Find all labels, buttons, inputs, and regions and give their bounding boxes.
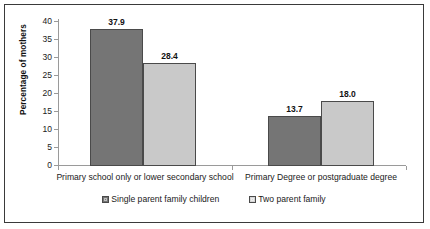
y-tick-label-40: 40 <box>30 17 52 26</box>
x-category-label-1: Primary school only or lower secondary s… <box>52 172 238 183</box>
bar-group1-series2[interactable] <box>143 63 196 166</box>
y-tick-5: 5 <box>27 143 52 152</box>
bar-group1-series1[interactable] <box>90 29 143 166</box>
y-tick-mark-40 <box>54 21 58 22</box>
x-category-label-2: Primary Degree or postgraduate degree <box>233 172 409 183</box>
y-tick-label-35: 35 <box>30 35 52 44</box>
y-tick-40: 40 <box>27 17 52 26</box>
y-tick-20: 20 <box>27 89 52 98</box>
legend-label-series1: Single parent family children <box>111 194 219 204</box>
y-tick-label-0: 0 <box>30 161 52 170</box>
y-tick-label-30: 30 <box>30 53 52 62</box>
y-tick-mark-10 <box>54 129 58 130</box>
bar-value-label-group1-series2: 28.4 <box>143 51 196 61</box>
y-tick-25: 25 <box>27 71 52 80</box>
x-tick-mark-divider <box>232 166 233 170</box>
y-tick-label-15: 15 <box>30 107 52 116</box>
legend-label-series2: Two parent family <box>258 194 325 204</box>
y-tick-mark-30 <box>54 57 58 58</box>
x-tick-mark-start <box>58 166 59 170</box>
chart-figure: Percentage of mothers 0 5 10 15 20 25 30 <box>4 4 424 223</box>
legend-swatch-icon-series2 <box>249 196 256 203</box>
y-tick-label-20: 20 <box>30 89 52 98</box>
plot-area: Percentage of mothers 0 5 10 15 20 25 30 <box>5 5 423 222</box>
x-tick-mark-end <box>406 166 407 170</box>
y-tick-35: 35 <box>27 35 52 44</box>
legend-item-single-parent-family-children[interactable]: Single parent family children <box>102 194 219 204</box>
y-tick-mark-35 <box>54 39 58 40</box>
y-tick-10: 10 <box>27 125 52 134</box>
bar-value-label-group2-series1: 13.7 <box>268 104 321 114</box>
y-tick-label-25: 25 <box>30 71 52 80</box>
y-tick-mark-25 <box>54 75 58 76</box>
y-tick-mark-15 <box>54 111 58 112</box>
y-tick-mark-5 <box>54 147 58 148</box>
legend-swatch-icon-series1 <box>102 196 109 203</box>
bar-value-label-group2-series2: 18.0 <box>321 89 374 99</box>
bar-group2-series1[interactable] <box>268 116 321 166</box>
y-axis-line <box>58 19 59 166</box>
y-tick-label-10: 10 <box>30 125 52 134</box>
y-tick-30: 30 <box>27 53 52 62</box>
bar-group2-series2[interactable] <box>321 101 374 166</box>
y-tick-0: 0 <box>27 161 52 170</box>
y-tick-mark-20 <box>54 93 58 94</box>
y-tick-15: 15 <box>27 107 52 116</box>
legend-item-two-parent-family[interactable]: Two parent family <box>249 194 325 204</box>
y-tick-label-5: 5 <box>30 143 52 152</box>
chart-legend: Single parent family children Two parent… <box>5 194 423 204</box>
bar-value-label-group1-series1: 37.9 <box>90 17 143 27</box>
